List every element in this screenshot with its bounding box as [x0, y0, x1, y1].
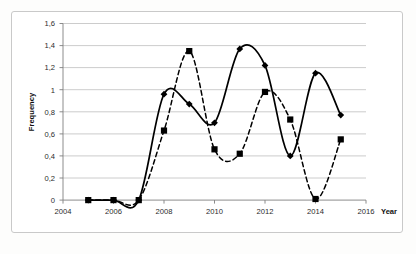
series-dashed-square-marker	[211, 146, 217, 152]
series-dashed-square-marker	[110, 197, 116, 203]
x-tick-label-2012: 2012	[257, 207, 274, 216]
y-tick-label-0.2: 0,2	[44, 174, 55, 183]
x-tick-label-2004: 2004	[55, 207, 72, 216]
series-dashed-square-marker	[262, 89, 268, 95]
x-tick-label-2010: 2010	[206, 207, 223, 216]
y-tick-label-1.2: 1,2	[44, 63, 55, 72]
series-dashed-square-marker	[161, 127, 167, 133]
x-axis-title: Year	[381, 207, 397, 216]
series-solid-diamond	[85, 45, 344, 208]
y-axis-title: Frequency	[27, 92, 36, 131]
series-dashed-square-marker	[287, 116, 293, 122]
x-tick-label-2006: 2006	[105, 207, 122, 216]
series-dashed-square-marker	[312, 196, 318, 202]
y-tick-label-1.6: 1,6	[44, 19, 55, 28]
x-tick-label-2008: 2008	[156, 207, 173, 216]
y-tick-label-0.4: 0,4	[44, 152, 55, 161]
chart-figure: 1,6 1,4 1,2 1 0,8 0,6 0,4 0,2 0 2004 200…	[0, 0, 416, 254]
series-dashed-square-line	[88, 51, 341, 205]
y-tick-label-0.6: 0,6	[44, 130, 55, 139]
series-solid-diamond-line	[88, 45, 341, 208]
series-dashed-square-marker	[186, 48, 192, 54]
x-tick-label-2014: 2014	[307, 207, 324, 216]
chart-plot-area: 1,6 1,4 1,2 1 0,8 0,6 0,4 0,2 0 2004 200…	[0, 0, 416, 254]
y-axis	[60, 24, 64, 201]
series-dashed-square-marker	[136, 197, 142, 203]
series-dashed-square-marker	[237, 151, 243, 157]
series-layer	[85, 45, 344, 208]
series-dashed-square	[85, 48, 344, 205]
gridlines-horizontal	[63, 24, 366, 179]
y-tick-label-0.8: 0,8	[44, 108, 55, 117]
y-tick-label-1: 1	[51, 86, 55, 95]
series-dashed-square-marker	[85, 197, 91, 203]
y-tick-labels: 1,6 1,4 1,2 1 0,8 0,6 0,4 0,2 0	[44, 19, 55, 205]
series-dashed-square-marker	[338, 136, 344, 142]
series-solid-diamond-marker	[337, 112, 344, 119]
x-tick-labels: 2004 2006 2008 2010 2012 2014 2016	[55, 207, 375, 216]
y-tick-label-0: 0	[51, 196, 55, 205]
x-tick-label-2016: 2016	[358, 207, 375, 216]
y-tick-label-1.4: 1,4	[44, 41, 55, 50]
